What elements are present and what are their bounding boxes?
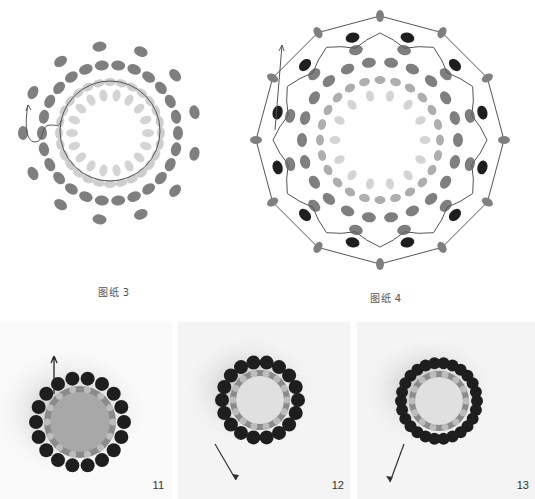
diagram-4-caption: 图纸 4 — [370, 290, 402, 305]
diagram-4 — [230, 0, 535, 280]
photo-step-12: 12 — [178, 322, 350, 499]
photo-step-13: 13 — [357, 322, 535, 499]
beadwork-photo-12 — [178, 322, 350, 499]
diagram-3-caption: 图纸 3 — [98, 284, 130, 299]
photo-step-11: 11 — [0, 322, 172, 499]
photo-number-12: 12 — [332, 479, 344, 491]
bead-pattern-diagram-4 — [230, 0, 535, 280]
beadwork-photo-13 — [357, 322, 535, 499]
beadwork-photo-11 — [0, 322, 172, 499]
photo-number-11: 11 — [153, 479, 164, 491]
bead-pattern-diagram-3 — [0, 0, 230, 250]
diagram-3 — [0, 0, 230, 250]
photo-number-13: 13 — [517, 479, 529, 491]
